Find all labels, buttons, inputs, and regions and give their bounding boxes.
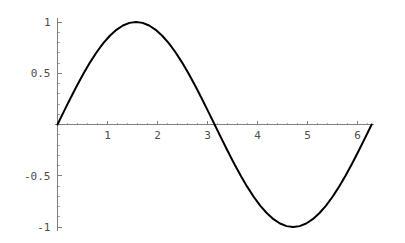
x-tick-label: 5 [304, 129, 311, 142]
y-tick-label: 1 [44, 16, 51, 29]
x-tick-label: 1 [104, 129, 111, 142]
y-tick-label: -1 [37, 221, 50, 234]
x-tick-label: 3 [204, 129, 211, 142]
sine-plot-figure: 123456 10.5-0.5-1 [0, 0, 405, 243]
y-tick-label: 0.5 [31, 67, 51, 80]
x-tick-label: 2 [154, 129, 161, 142]
x-tick-label: 4 [254, 129, 261, 142]
y-tick-label: -0.5 [24, 170, 51, 183]
x-tick-label: 6 [354, 129, 361, 142]
plot-canvas: 123456 10.5-0.5-1 [0, 0, 405, 243]
plot-background [0, 0, 405, 243]
